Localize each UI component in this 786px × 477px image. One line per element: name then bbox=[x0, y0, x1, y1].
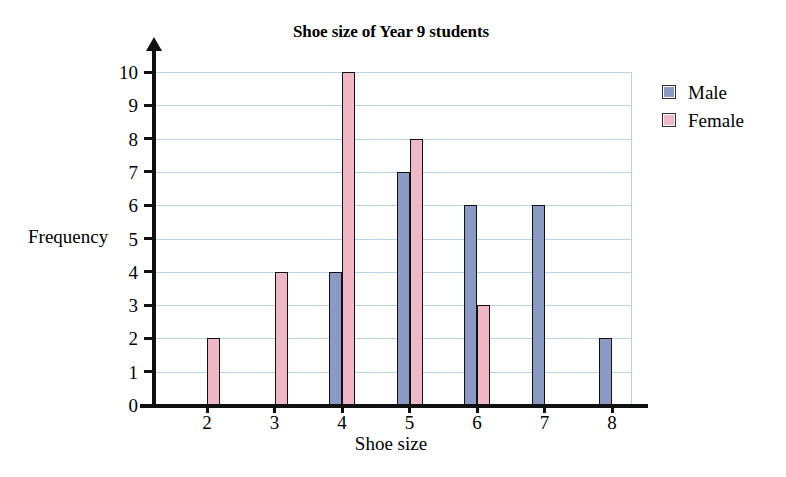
x-axis-tick-label: 4 bbox=[322, 412, 362, 434]
male-swatch bbox=[662, 85, 676, 99]
y-axis-tick-label: 10 bbox=[104, 63, 138, 82]
y-axis-tick bbox=[144, 204, 156, 207]
y-axis-tick bbox=[144, 404, 156, 407]
x-axis-tick-label: 6 bbox=[457, 412, 497, 434]
y-axis-tick bbox=[144, 370, 156, 373]
gridline bbox=[155, 338, 632, 339]
y-axis-tick-label: 9 bbox=[104, 96, 138, 115]
y-axis-tick-label: 8 bbox=[104, 130, 138, 149]
legend-item-male[interactable]: Male bbox=[662, 78, 744, 106]
x-axis-tick-label: 5 bbox=[390, 412, 430, 434]
x-axis-title: Shoe size bbox=[150, 433, 632, 455]
plot-right-border bbox=[631, 72, 632, 405]
y-axis-tick bbox=[144, 304, 156, 307]
legend-item-label: Male bbox=[688, 83, 727, 102]
legend-item-label: Female bbox=[688, 111, 744, 130]
x-axis-tick-label: 2 bbox=[187, 412, 227, 434]
gridline bbox=[155, 205, 632, 206]
y-axis-line bbox=[152, 48, 156, 406]
chart-title: Shoe size of Year 9 students bbox=[150, 22, 632, 42]
bar-female-2 bbox=[207, 338, 220, 405]
bar-male-4 bbox=[329, 272, 342, 405]
gridline bbox=[155, 305, 632, 306]
x-axis-line bbox=[140, 404, 648, 408]
y-axis-tick-label: 4 bbox=[104, 263, 138, 282]
y-axis-tick-label: 2 bbox=[104, 329, 138, 348]
x-axis-tick-label: 8 bbox=[592, 412, 632, 434]
y-axis-tick bbox=[144, 137, 156, 140]
gridline bbox=[155, 272, 632, 273]
bar-male-8 bbox=[599, 338, 612, 405]
y-axis-tick-label: 0 bbox=[104, 396, 138, 415]
bar-female-3 bbox=[275, 272, 288, 405]
gridline bbox=[155, 105, 632, 106]
x-axis-tick-label: 7 bbox=[525, 412, 565, 434]
y-axis-tick bbox=[144, 337, 156, 340]
bar-male-5 bbox=[397, 172, 410, 405]
plot-area bbox=[155, 72, 632, 405]
y-axis-tick-label: 5 bbox=[104, 230, 138, 249]
y-axis-title: Frequency bbox=[28, 227, 108, 246]
y-axis-tick-label: 7 bbox=[104, 163, 138, 182]
bar-female-6 bbox=[477, 305, 490, 405]
y-axis-tick-label: 1 bbox=[104, 363, 138, 382]
legend-item-female[interactable]: Female bbox=[662, 106, 744, 134]
y-axis-tick bbox=[144, 104, 156, 107]
y-axis-tick bbox=[144, 170, 156, 173]
y-axis-tick bbox=[144, 71, 156, 74]
gridline bbox=[155, 239, 632, 240]
gridline bbox=[155, 172, 632, 173]
chart-legend: MaleFemale bbox=[662, 78, 744, 134]
gridline bbox=[155, 372, 632, 373]
y-axis-tick-label: 6 bbox=[104, 196, 138, 215]
gridline bbox=[155, 139, 632, 140]
bar-female-4 bbox=[342, 72, 355, 405]
x-axis-tick-label: 3 bbox=[255, 412, 295, 434]
bar-male-6 bbox=[464, 205, 477, 405]
bar-female-5 bbox=[410, 139, 423, 405]
y-axis-tick-label: 3 bbox=[104, 296, 138, 315]
y-axis-tick bbox=[144, 270, 156, 273]
gridline bbox=[155, 72, 632, 73]
bar-chart: Shoe size of Year 9 students 01234567891… bbox=[0, 0, 786, 477]
bar-male-7 bbox=[532, 205, 545, 405]
female-swatch bbox=[662, 113, 676, 127]
arrow-up-icon bbox=[146, 37, 162, 51]
y-axis-tick bbox=[144, 237, 156, 240]
